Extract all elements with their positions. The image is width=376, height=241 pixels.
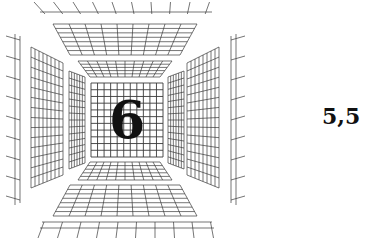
left-wall-inner-panel [69, 71, 85, 169]
tunnel-grid-drawing [0, 0, 376, 241]
ceiling-far-strip [34, 2, 212, 14]
perspective-tunnel-figure: 6 5,5 [0, 0, 376, 241]
floor-inner-panel [78, 162, 172, 180]
floor-outer-panel [53, 185, 197, 216]
ceiling-inner-panel [78, 61, 172, 77]
left-wall-outer-panel [31, 47, 63, 188]
ceiling-outer-panel [53, 24, 197, 55]
right-wall-inner-panel [168, 71, 184, 169]
right-wall-outer-panel [187, 47, 219, 188]
center-number: 6 [90, 82, 164, 158]
floor-far-strip [38, 222, 214, 238]
left-wall-far-strip [6, 34, 20, 205]
right-wall-far-strip [231, 34, 245, 205]
side-label: 5,5 [322, 103, 360, 129]
